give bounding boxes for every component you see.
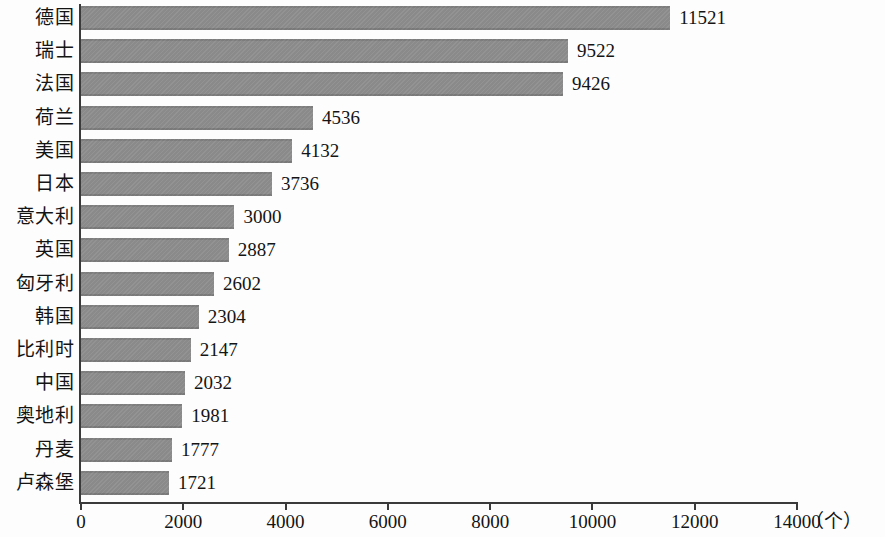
- bar-value-label: 2032: [194, 371, 232, 395]
- x-axis-tick: [182, 503, 184, 510]
- x-axis-tick-label: 2000: [164, 511, 202, 533]
- category-label: 奥地利: [0, 404, 74, 428]
- x-axis-tick: [489, 503, 491, 510]
- bar-value-label: 4132: [301, 139, 339, 163]
- bar: [81, 338, 191, 362]
- bar: [81, 205, 234, 229]
- category-label: 日本: [0, 172, 74, 196]
- bar: [81, 6, 670, 30]
- bar-row: 意大利3000: [0, 205, 885, 229]
- category-label: 匈牙利: [0, 272, 74, 296]
- x-axis-tick-label: 8000: [471, 511, 509, 533]
- bar: [81, 371, 185, 395]
- bar-value-label: 1981: [191, 404, 229, 428]
- bar-row: 瑞士9522: [0, 39, 885, 63]
- x-axis-tick-label: 10000: [569, 511, 617, 533]
- bar-row: 比利时2147: [0, 338, 885, 362]
- bar-value-label: 1777: [181, 438, 219, 462]
- bar: [81, 438, 172, 462]
- bar-row: 韩国2304: [0, 305, 885, 329]
- bar-value-label: 3000: [243, 205, 281, 229]
- bar: [81, 39, 568, 63]
- bar-row: 日本3736: [0, 172, 885, 196]
- x-axis-tick-label: 4000: [267, 511, 305, 533]
- x-axis-tick: [591, 503, 593, 510]
- category-label: 韩国: [0, 305, 74, 329]
- category-label: 荷兰: [0, 106, 74, 130]
- bar-row: 中国2032: [0, 371, 885, 395]
- bar-value-label: 3736: [281, 172, 319, 196]
- bar-row: 英国2887: [0, 238, 885, 262]
- bar: [81, 106, 313, 130]
- category-label: 英国: [0, 238, 74, 262]
- category-label: 丹麦: [0, 438, 74, 462]
- category-label: 意大利: [0, 205, 74, 229]
- x-axis-tick-label: 0: [76, 511, 86, 533]
- bar-rows-container: 德国11521瑞士9522法国9426荷兰4536美国4132日本3736意大利…: [0, 0, 885, 503]
- bar-value-label: 2887: [238, 238, 276, 262]
- bar-row: 奥地利1981: [0, 404, 885, 428]
- category-label: 美国: [0, 139, 74, 163]
- category-label: 卢森堡: [0, 471, 74, 495]
- x-axis-tick-label: 12000: [671, 511, 719, 533]
- bar-row: 法国9426: [0, 72, 885, 96]
- bar: [81, 272, 214, 296]
- bar-value-label: 9522: [577, 39, 615, 63]
- bar-row: 匈牙利2602: [0, 272, 885, 296]
- bar-value-label: 11521: [679, 6, 726, 30]
- bar: [81, 139, 292, 163]
- bar: [81, 72, 563, 96]
- bar: [81, 172, 272, 196]
- x-axis-tick: [796, 503, 798, 510]
- bar-chart: 德国11521瑞士9522法国9426荷兰4536美国4132日本3736意大利…: [0, 0, 885, 537]
- bar-row: 德国11521: [0, 6, 885, 30]
- bar-row: 荷兰4536: [0, 106, 885, 130]
- bar-value-label: 9426: [572, 72, 610, 96]
- bar-row: 美国4132: [0, 139, 885, 163]
- bar-value-label: 1721: [178, 471, 216, 495]
- bar: [81, 305, 199, 329]
- category-label: 比利时: [0, 338, 74, 362]
- category-label: 德国: [0, 6, 74, 30]
- bar: [81, 471, 169, 495]
- x-axis-tick: [285, 503, 287, 510]
- bar: [81, 238, 229, 262]
- x-axis-tick-label: 6000: [369, 511, 407, 533]
- bar-row: 卢森堡1721: [0, 471, 885, 495]
- bar: [81, 404, 182, 428]
- category-label: 中国: [0, 371, 74, 395]
- bar-value-label: 2147: [200, 338, 238, 362]
- bar-row: 丹麦1777: [0, 438, 885, 462]
- bar-value-label: 2304: [208, 305, 246, 329]
- category-label: 法国: [0, 72, 74, 96]
- x-axis-tick: [80, 503, 82, 510]
- bar-value-label: 4536: [322, 106, 360, 130]
- x-axis-unit-label: （个）: [805, 511, 862, 533]
- x-axis-tick: [387, 503, 389, 510]
- category-label: 瑞士: [0, 39, 74, 63]
- x-axis-tick: [694, 503, 696, 510]
- bar-value-label: 2602: [223, 272, 261, 296]
